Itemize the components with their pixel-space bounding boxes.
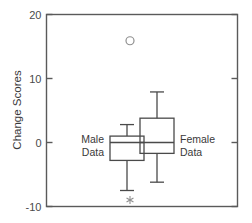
series-label-female-data-line1: Female (180, 133, 215, 145)
y-tick-label-0: 0 (35, 137, 41, 149)
plot-frame (47, 15, 238, 207)
series-label-male-data-line1: Male (81, 133, 104, 145)
box-rect-female-data (140, 118, 174, 153)
series-label-male-data-line2: Data (82, 146, 104, 158)
y-axis-tick-labels: -1001020 (26, 9, 42, 213)
box-plots (110, 92, 174, 191)
outlier-asterisk-male-data-1 (127, 196, 134, 204)
y-tick-label-10: 10 (29, 73, 41, 85)
series-label-female-data-line2: Data (180, 146, 202, 158)
box-female-data (140, 92, 174, 182)
chart-canvas: -1001020 MaleDataFemaleData Change Score… (0, 0, 252, 223)
outlier-circle-male-data-0 (126, 37, 134, 45)
box-rect-male-data (110, 136, 144, 160)
axes-frame (47, 15, 238, 207)
boxplot-figure: -1001020 MaleDataFemaleData Change Score… (0, 0, 252, 223)
series-labels: MaleDataFemaleData (81, 133, 215, 158)
box-male-data (110, 125, 144, 191)
y-tick-label-20: 20 (29, 9, 41, 21)
y-axis-ticks (47, 15, 238, 207)
y-axis-title: Change Scores (11, 70, 23, 150)
y-tick-label--10: -10 (26, 201, 42, 213)
